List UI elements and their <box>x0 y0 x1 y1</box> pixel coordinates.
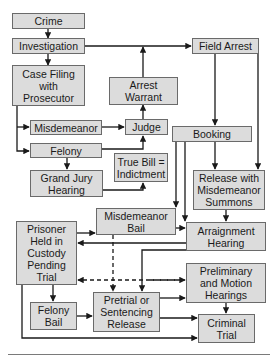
bottom-divider <box>8 354 270 355</box>
node-field-arrest: Field Arrest <box>192 38 259 54</box>
node-arrest-warrant: Arrest Warrant <box>109 77 178 105</box>
criminal-justice-flowchart: Crime Investigation Case Filing with Pro… <box>0 0 278 358</box>
node-investigation: Investigation <box>12 38 85 54</box>
node-felony-bail: Felony Bail <box>30 302 77 330</box>
node-misdemeanor: Misdemeanor <box>30 120 102 135</box>
node-preliminary: Preliminary and Motion Hearings <box>186 263 266 303</box>
node-felony: Felony <box>30 143 102 158</box>
node-arraignment: Arraignment Hearing <box>186 222 266 251</box>
node-true-bill: True Bill = Indictment <box>114 153 168 182</box>
node-booking: Booking <box>172 126 252 142</box>
node-criminal-trial: Criminal Trial <box>198 314 255 343</box>
node-case-filing: Case Filing with Prosecutor <box>12 65 85 106</box>
node-release-summons: Release with Misdemeanor Summons <box>193 170 265 210</box>
node-judge: Judge <box>125 119 168 135</box>
node-misdemeanor-bail: Misdemeanor Bail <box>96 208 176 235</box>
node-prisoner-held: Prisoner Held in Custody Pending Trial <box>16 221 77 285</box>
node-grand-jury: Grand Jury Hearing <box>30 170 103 197</box>
node-crime: Crime <box>12 13 85 29</box>
node-pretrial-release: Pretrial or Sentencing Release <box>93 292 160 332</box>
